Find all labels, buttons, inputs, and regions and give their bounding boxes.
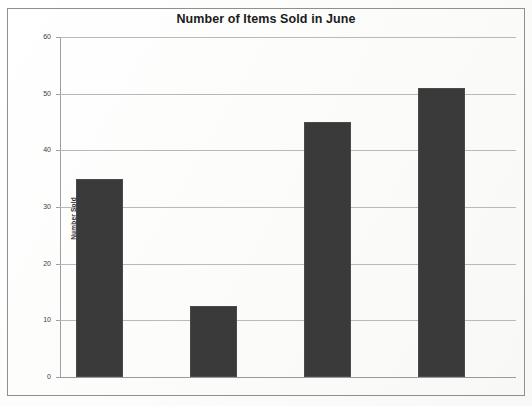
- bar-scooters: [76, 179, 123, 377]
- y-axis-title: Number Sold: [70, 184, 77, 254]
- y-tick-label-0: 0: [29, 373, 51, 380]
- y-tick-label-40: 40: [29, 146, 51, 153]
- y-tick-mark-40: [56, 150, 60, 151]
- y-tick-mark-20: [56, 264, 60, 265]
- y-tick-mark-0: [56, 377, 60, 378]
- y-tick-mark-60: [56, 37, 60, 38]
- bar-helmets: [418, 88, 465, 377]
- y-tick-label-30: 30: [29, 203, 51, 210]
- y-tick-mark-30: [56, 207, 60, 208]
- chart-title: Number of Items Sold in June: [7, 12, 525, 26]
- plot-area: ScootersBicyclesSkatesHelmets Number Sol…: [60, 37, 516, 377]
- bar-skates: [304, 122, 351, 377]
- gridline-0: [60, 377, 516, 378]
- y-tick-mark-50: [56, 94, 60, 95]
- bar-bicycles: [190, 306, 237, 377]
- y-tick-label-20: 20: [29, 260, 51, 267]
- bar-chart-screenshot: Number of Items Sold in June ScootersBic…: [0, 0, 532, 406]
- y-tick-label-60: 60: [29, 33, 51, 40]
- y-tick-mark-10: [56, 320, 60, 321]
- gridline-60: [60, 37, 516, 38]
- y-tick-label-50: 50: [29, 90, 51, 97]
- y-tick-label-10: 10: [29, 316, 51, 323]
